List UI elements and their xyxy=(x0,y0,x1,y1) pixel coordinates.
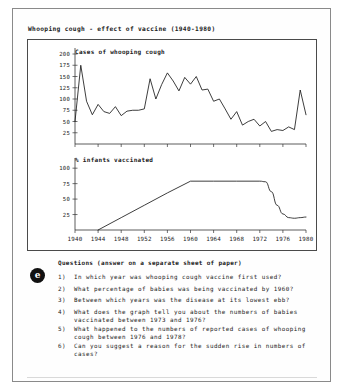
question-text: Between which years was the disease at i… xyxy=(74,296,290,304)
question-number: 3) xyxy=(58,296,74,304)
question-text: What happened to the numbers of reported… xyxy=(74,325,306,341)
question-item: 1)In which year was whooping cough vacci… xyxy=(58,273,282,281)
x-axis-tick-label: 1952 xyxy=(137,236,152,242)
x-axis-tick-label: 1980 xyxy=(299,236,314,242)
question-number: 4) xyxy=(58,308,74,324)
charts-svg: 2550751001251501752002550751001940194419… xyxy=(28,40,316,250)
question-item: 3)Between which years was the disease at… xyxy=(58,296,290,304)
questions-heading: Questions (answer on a separate sheet of… xyxy=(58,259,242,266)
question-number: 5) xyxy=(58,325,74,341)
vacc-y-tick-label: 50 xyxy=(63,196,70,202)
vacc-y-tick-label: 75 xyxy=(63,181,70,187)
cases-y-tick-label: 200 xyxy=(59,51,70,57)
cases-y-tick-label: 175 xyxy=(59,62,70,68)
question-number: 1) xyxy=(58,273,74,281)
x-axis-tick-label: 1960 xyxy=(183,236,198,242)
question-number: 2) xyxy=(58,285,74,293)
question-item: 4)What does the graph tell you about the… xyxy=(58,308,298,324)
x-axis-tick-label: 1948 xyxy=(114,236,129,242)
question-item: 6)Can you suggest a reason for the sudde… xyxy=(58,342,306,358)
x-axis-tick-label: 1968 xyxy=(229,236,244,242)
cases-y-tick-label: 50 xyxy=(63,119,70,125)
x-axis-tick-label: 1956 xyxy=(160,236,175,242)
worksheet-page: Whooping cough - effect of vaccine (1940… xyxy=(12,8,331,382)
cases-y-tick-label: 25 xyxy=(63,130,70,136)
page-title: Whooping cough - effect of vaccine (1940… xyxy=(28,25,215,32)
question-item: 2)What percentage of babies was being va… xyxy=(58,285,294,293)
question-item: 5)What happened to the numbers of report… xyxy=(58,325,306,341)
figure-container: Cases of whooping cough % infants vaccin… xyxy=(27,39,317,251)
x-axis-tick-label: 1964 xyxy=(206,236,221,242)
x-axis-tick-label: 1972 xyxy=(252,236,267,242)
cases-y-tick-label: 75 xyxy=(63,107,70,113)
question-text: Can you suggest a reason for the sudden … xyxy=(74,342,306,358)
question-number: 6) xyxy=(58,342,74,358)
x-axis-tick-label: 1944 xyxy=(91,236,106,242)
vacc-y-tick-label: 25 xyxy=(63,212,70,218)
question-text: In which year was whooping cough vaccine… xyxy=(74,273,282,281)
x-axis-tick-label: 1976 xyxy=(276,236,291,242)
vaccination-line-series xyxy=(98,181,306,230)
question-text: What percentage of babies was being vacc… xyxy=(74,285,294,293)
footer-divider xyxy=(27,377,317,378)
cases-y-tick-label: 150 xyxy=(59,74,70,80)
question-text: What does the graph tell you about the n… xyxy=(74,308,298,324)
section-marker-e-icon: e xyxy=(30,268,45,283)
cases-y-tick-label: 100 xyxy=(59,96,70,102)
cases-line-series xyxy=(75,65,306,131)
vacc-y-tick-label: 100 xyxy=(59,165,70,171)
x-axis-tick-label: 1940 xyxy=(68,236,83,242)
cases-y-tick-label: 125 xyxy=(59,85,70,91)
